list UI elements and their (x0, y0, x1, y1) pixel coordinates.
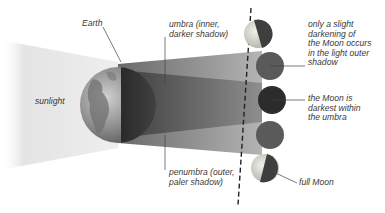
moon-phase-1 (244, 19, 273, 48)
label-umbra: umbra (inner, darker shadow) (169, 20, 228, 39)
label-sunlight: sunlight (35, 97, 65, 107)
label-slight-darkening: only a slight darkening of the Moon occu… (308, 20, 372, 68)
moon-phase-4 (256, 121, 284, 149)
earth-leader-line (103, 27, 121, 62)
lunar-eclipse-diagram: Earth sunlight umbra (inner, darker shad… (0, 0, 385, 213)
label-penumbra: penumbra (outer, paler shadow) (169, 168, 234, 187)
label-full-moon: full Moon (299, 178, 334, 188)
label-darkest: the Moon is darkest within the umbra (308, 94, 361, 123)
label-earth: Earth (82, 19, 103, 29)
